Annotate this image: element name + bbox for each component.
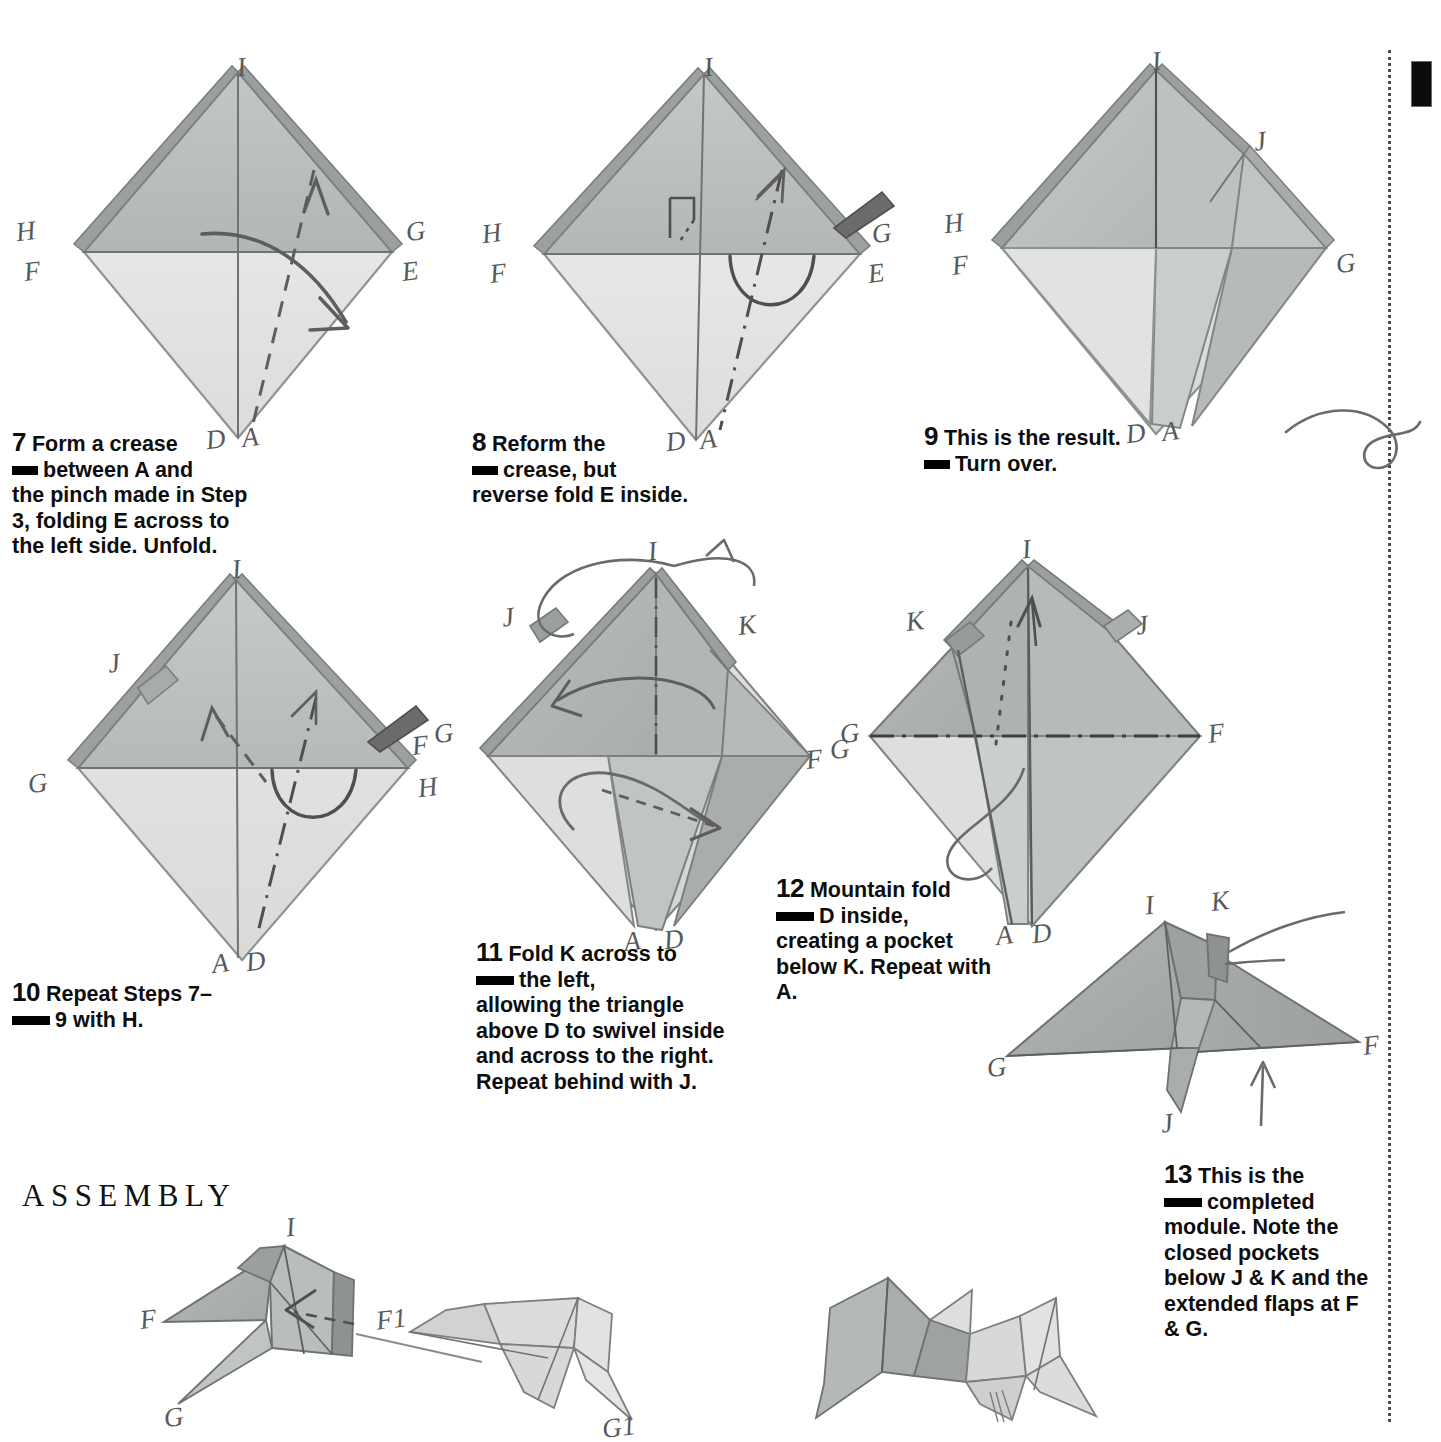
step-line-2: D inside,	[819, 904, 909, 928]
step-number: 12	[776, 873, 804, 903]
step-rule-bar	[1164, 1198, 1202, 1207]
step-rule-bar	[924, 460, 950, 469]
step-caption-9: 9 This is the result. Turn over.	[924, 424, 1164, 477]
diagram-label: E	[866, 257, 887, 290]
step-line-2: the left,	[519, 968, 595, 992]
diagram-step-9: I J H F G D A	[944, 26, 1374, 446]
step-number: 8	[472, 427, 486, 457]
diagram-label: K	[904, 605, 926, 638]
diagram-label: G	[26, 767, 50, 800]
diagram-assembly-joined-pair	[790, 1272, 1130, 1422]
step-number: 7	[12, 427, 26, 457]
step-rule-bar	[12, 466, 38, 475]
diagram-label: G	[432, 717, 456, 750]
step-number: 13	[1164, 1159, 1192, 1189]
diagram-label: E	[400, 255, 421, 288]
diagram-label: F	[950, 249, 971, 282]
diagram-label: F	[1361, 1029, 1382, 1062]
step-line-1: Fold K across to	[508, 942, 676, 966]
page-margin-dotted-rule	[1388, 50, 1394, 1422]
diagram-label: G	[162, 1401, 186, 1434]
diagram-label: K	[736, 609, 758, 642]
diagram-label: H	[942, 207, 966, 240]
step-rule-bar	[776, 912, 814, 921]
diagram-step-7: I H F G E D A	[24, 30, 454, 450]
step-rule-bar	[12, 1016, 50, 1025]
step-line-1: Form a crease	[32, 432, 178, 456]
diagram-label: F	[488, 257, 509, 290]
diagram-label: H	[416, 771, 440, 804]
diagram-label: G	[985, 1051, 1009, 1084]
diagram-step-8: I H F G E D A	[482, 30, 912, 450]
step-line-2: between A and	[43, 458, 193, 482]
diagram-label: G	[838, 717, 862, 750]
diagram-label: G1	[600, 1410, 638, 1442]
step-line-2: Turn over.	[955, 452, 1057, 476]
step-number: 9	[924, 421, 938, 451]
step-rule-bar	[476, 976, 514, 985]
diagram-label: H	[480, 217, 504, 250]
step-line-2: crease, but	[503, 458, 617, 482]
step-body: reverse fold E inside.	[472, 483, 688, 507]
diagram-label: H	[14, 215, 38, 248]
diagram-label: G	[870, 217, 894, 250]
step-line-1: This is the	[1198, 1164, 1304, 1188]
diagram-step-13: I K G F J	[985, 890, 1385, 1140]
step-caption-11: 11 Fold K across to the left, allowing t…	[476, 940, 726, 1095]
step-line-1: Repeat Steps 7–	[46, 982, 212, 1006]
diagram-label: G	[404, 215, 428, 248]
diagram-label: G	[1334, 247, 1358, 280]
diagram-label: F	[1206, 717, 1227, 750]
step-line-2: completed	[1207, 1190, 1315, 1214]
step-caption-8: 8 Reform the crease, but reverse fold E …	[472, 430, 702, 509]
step-number: 10	[12, 977, 40, 1007]
turn-over-arrow-icon	[1284, 398, 1424, 488]
page-corner-tab-marker	[1411, 61, 1432, 107]
step-body: module. Note the closed pockets below J …	[1164, 1215, 1368, 1341]
step-body: allowing the triangle above D to swivel …	[476, 993, 725, 1094]
step-number: 11	[476, 937, 503, 967]
step-body: the pinch made in Step 3, folding E acro…	[12, 483, 247, 558]
step-line-1: This is the result.	[944, 426, 1121, 450]
step-caption-10: 10 Repeat Steps 7– 9 with H.	[12, 980, 262, 1033]
step-rule-bar	[472, 466, 498, 475]
step-body: creating a pocket below K. Repeat with A…	[776, 929, 991, 1004]
diagram-label: F	[22, 255, 43, 288]
diagram-label: F	[138, 1303, 159, 1336]
step-caption-12: 12 Mountain fold D inside, creating a po…	[776, 876, 998, 1006]
diagram-label: F1	[374, 1302, 409, 1337]
diagram-label: D	[244, 945, 268, 978]
diagram-assembly-module-right: F1 G1	[388, 1288, 688, 1428]
step-caption-13: 13 This is the completed module. Note th…	[1164, 1162, 1376, 1343]
diagram-label: F	[410, 729, 431, 762]
diagram-label: F	[804, 743, 825, 776]
step-line-2: 9 with H.	[55, 1008, 143, 1032]
diagram-label: K	[1209, 885, 1231, 918]
step-line-1: Reform the	[492, 432, 605, 456]
assembly-section-heading: ASSEMBLY	[22, 1178, 236, 1214]
diagram-step-10: I J G F G H A D	[20, 520, 460, 980]
step-line-1: Mountain fold	[810, 878, 951, 902]
diagram-label: A	[210, 947, 231, 980]
step-caption-7: 7 Form a crease between A and the pinch …	[12, 430, 252, 560]
